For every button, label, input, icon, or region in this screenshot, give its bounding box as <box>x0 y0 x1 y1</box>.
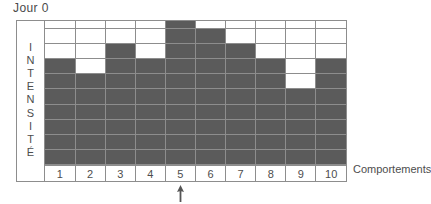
grid-cell[interactable] <box>45 134 75 149</box>
grid-cell[interactable] <box>165 104 195 119</box>
grid-cell[interactable] <box>286 74 316 89</box>
grid-cell[interactable] <box>135 44 165 59</box>
grid-cell[interactable] <box>135 74 165 89</box>
grid-cell[interactable] <box>256 134 286 149</box>
grid-cell[interactable] <box>75 74 105 89</box>
grid-cell[interactable] <box>105 21 135 29</box>
grid-cell[interactable] <box>286 134 316 149</box>
grid-cell[interactable] <box>286 44 316 59</box>
grid-cell[interactable] <box>135 29 165 44</box>
grid-cell[interactable] <box>45 149 75 164</box>
grid-cell[interactable] <box>226 134 256 149</box>
grid-cell[interactable] <box>45 104 75 119</box>
grid-cell[interactable] <box>105 104 135 119</box>
grid-cell[interactable] <box>75 89 105 104</box>
grid-cell[interactable] <box>105 74 135 89</box>
grid-cell[interactable] <box>135 21 165 29</box>
grid-cell[interactable] <box>75 44 105 59</box>
grid-cell[interactable] <box>286 21 316 29</box>
grid-cell[interactable] <box>105 89 135 104</box>
grid-cell[interactable] <box>286 104 316 119</box>
grid-cell[interactable] <box>195 89 225 104</box>
grid-cell[interactable] <box>226 29 256 44</box>
grid-cell[interactable] <box>316 89 346 104</box>
grid-cell[interactable] <box>165 29 195 44</box>
grid-cell[interactable] <box>75 29 105 44</box>
grid-cell[interactable] <box>165 89 195 104</box>
grid-cell[interactable] <box>195 134 225 149</box>
grid-cell[interactable] <box>75 134 105 149</box>
grid-cell[interactable] <box>45 119 75 134</box>
grid-cell[interactable] <box>226 149 256 164</box>
grid-cell[interactable] <box>316 119 346 134</box>
grid-cell[interactable] <box>75 104 105 119</box>
grid-cell[interactable] <box>286 149 316 164</box>
grid-cell[interactable] <box>226 44 256 59</box>
grid-cell[interactable] <box>316 29 346 44</box>
grid-cell[interactable] <box>45 29 75 44</box>
grid-cell[interactable] <box>226 59 256 74</box>
grid-cell[interactable] <box>256 74 286 89</box>
grid-cell[interactable] <box>75 149 105 164</box>
grid-cell[interactable] <box>316 149 346 164</box>
grid-cell[interactable] <box>135 134 165 149</box>
grid-cell[interactable] <box>165 149 195 164</box>
grid-cell[interactable] <box>105 59 135 74</box>
grid-cell[interactable] <box>256 21 286 29</box>
grid-cell[interactable] <box>286 59 316 74</box>
grid-cell[interactable] <box>226 21 256 29</box>
grid-cell[interactable] <box>316 104 346 119</box>
grid-cell[interactable] <box>316 44 346 59</box>
grid-cell[interactable] <box>316 21 346 29</box>
grid-cell[interactable] <box>45 44 75 59</box>
grid-cell[interactable] <box>165 44 195 59</box>
grid-cell[interactable] <box>165 74 195 89</box>
grid-cell[interactable] <box>195 44 225 59</box>
grid-cell[interactable] <box>45 74 75 89</box>
grid-cell[interactable] <box>135 149 165 164</box>
grid-cell[interactable] <box>75 21 105 29</box>
grid-cell[interactable] <box>286 119 316 134</box>
grid-cell[interactable] <box>226 119 256 134</box>
grid-cell[interactable] <box>45 59 75 74</box>
grid-cell[interactable] <box>316 74 346 89</box>
grid-cell[interactable] <box>45 89 75 104</box>
grid-cell[interactable] <box>226 89 256 104</box>
grid-cell[interactable] <box>226 74 256 89</box>
grid-cell[interactable] <box>165 59 195 74</box>
grid-cell[interactable] <box>75 59 105 74</box>
grid-cell[interactable] <box>256 29 286 44</box>
grid-cell[interactable] <box>135 104 165 119</box>
grid-cell[interactable] <box>135 59 165 74</box>
grid-cell[interactable] <box>256 119 286 134</box>
grid-cell[interactable] <box>105 44 135 59</box>
grid-cell[interactable] <box>165 21 195 29</box>
grid-cell[interactable] <box>316 59 346 74</box>
grid-cell[interactable] <box>256 59 286 74</box>
grid-cell[interactable] <box>105 119 135 134</box>
grid-cell[interactable] <box>195 104 225 119</box>
grid-cell[interactable] <box>195 29 225 44</box>
grid-cell[interactable] <box>195 149 225 164</box>
grid-cell[interactable] <box>316 134 346 149</box>
grid-cell[interactable] <box>135 89 165 104</box>
grid-cell[interactable] <box>105 134 135 149</box>
grid-cell[interactable] <box>226 104 256 119</box>
grid-cell[interactable] <box>195 59 225 74</box>
grid-cell[interactable] <box>256 149 286 164</box>
grid-cell[interactable] <box>105 149 135 164</box>
grid-cell[interactable] <box>135 119 165 134</box>
grid-cell[interactable] <box>75 119 105 134</box>
grid-cell[interactable] <box>256 89 286 104</box>
grid-cell[interactable] <box>195 119 225 134</box>
grid-cell[interactable] <box>286 29 316 44</box>
grid-cell[interactable] <box>195 74 225 89</box>
grid-cell[interactable] <box>45 21 75 29</box>
grid-cell[interactable] <box>286 89 316 104</box>
grid-cell[interactable] <box>256 44 286 59</box>
grid-cell[interactable] <box>165 134 195 149</box>
grid-cell[interactable] <box>195 21 225 29</box>
grid-cell[interactable] <box>165 119 195 134</box>
grid-cell[interactable] <box>105 29 135 44</box>
grid-cell[interactable] <box>256 104 286 119</box>
